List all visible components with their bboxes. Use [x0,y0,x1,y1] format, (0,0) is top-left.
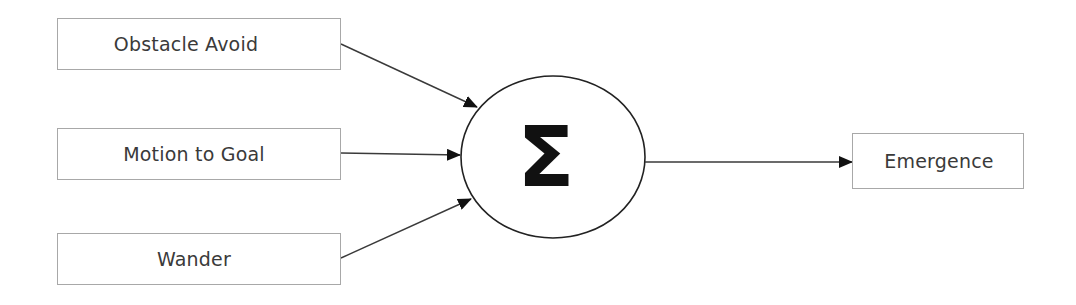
summation-node: Σ [460,75,646,239]
input-label-motion-to-goal: Motion to Goal [123,143,265,165]
input-label-wander: Wander [157,248,231,270]
behavior-summation-diagram: Σ Obstacle Avoid Motion to Goal Wander E… [0,0,1076,305]
sigma-symbol: Σ [517,115,574,199]
output-box-emergence: Emergence [852,133,1024,189]
output-label-emergence: Emergence [884,150,993,172]
input-label-obstacle-avoid: Obstacle Avoid [114,33,258,55]
input-box-obstacle-avoid: Obstacle Avoid [57,18,341,70]
arrow-obstacle-to-sum [341,44,477,107]
arrow-motion-to-sum [341,153,460,155]
input-box-motion-to-goal: Motion to Goal [57,128,341,180]
input-box-wander: Wander [57,233,341,285]
arrow-wander-to-sum [341,199,471,258]
